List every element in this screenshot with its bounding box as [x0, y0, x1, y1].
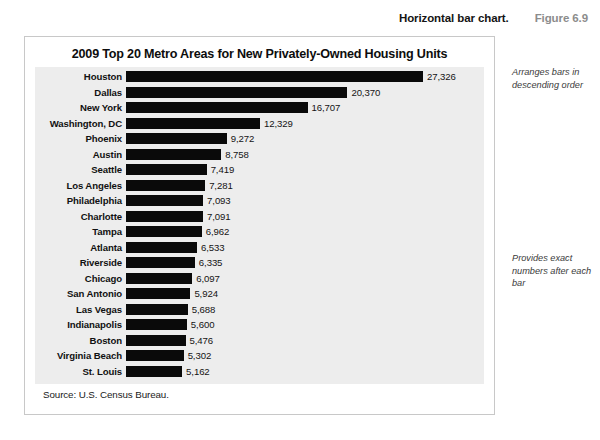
bar-value-label: 20,370	[351, 87, 380, 98]
bar-category-label: Riverside	[35, 257, 126, 268]
bar-value-label: 8,758	[225, 149, 249, 160]
bar-row: St. Louis5,162	[35, 364, 484, 380]
chart-title: 2009 Top 20 Metro Areas for New Privatel…	[25, 47, 494, 61]
bar-category-label: Indianapolis	[35, 319, 126, 330]
bar-track: 5,162	[126, 364, 484, 380]
bar-fill	[126, 195, 203, 206]
bar-fill	[126, 288, 190, 299]
bar-fill	[126, 87, 347, 98]
bar-category-label: Phoenix	[35, 133, 126, 144]
figure-number-label: Figure 6.9	[535, 12, 588, 24]
bar-category-label: Seattle	[35, 164, 126, 175]
bar-value-label: 6,533	[201, 242, 225, 253]
bar-category-label: Las Vegas	[35, 304, 126, 315]
bar-row: Houston27,326	[35, 69, 484, 85]
bar-row-list: Houston27,326Dallas20,370New York16,707W…	[35, 69, 484, 379]
bar-fill	[126, 304, 188, 315]
bar-track: 27,326	[126, 69, 484, 85]
bar-value-label: 5,924	[194, 288, 218, 299]
bar-track: 5,688	[126, 302, 484, 318]
bar-track: 5,924	[126, 286, 484, 302]
bar-fill	[126, 211, 203, 222]
bar-track: 7,093	[126, 193, 484, 209]
bar-category-label: San Antonio	[35, 288, 126, 299]
bar-track: 6,533	[126, 240, 484, 256]
bar-fill	[126, 242, 197, 253]
bar-fill	[126, 350, 184, 361]
bar-category-label: Philadelphia	[35, 195, 126, 206]
bar-row: Atlanta6,533	[35, 240, 484, 256]
bar-fill	[126, 226, 202, 237]
bar-row: Austin8,758	[35, 147, 484, 163]
bar-category-label: Tampa	[35, 226, 126, 237]
bar-row: Seattle7,419	[35, 162, 484, 178]
bar-track: 12,329	[126, 116, 484, 132]
chart-card: 2009 Top 20 Metro Areas for New Privatel…	[24, 36, 495, 415]
bar-track: 5,302	[126, 348, 484, 364]
annotation-descending-order: Arranges bars in descending order	[512, 66, 592, 91]
bar-category-label: Dallas	[35, 87, 126, 98]
bar-row: Indianapolis5,600	[35, 317, 484, 333]
bar-track: 9,272	[126, 131, 484, 147]
bar-value-label: 5,600	[191, 319, 215, 330]
bar-row: Philadelphia7,093	[35, 193, 484, 209]
bar-category-label: Washington, DC	[35, 118, 126, 129]
figure-caption-row: Horizontal bar chart. Figure 6.9	[0, 12, 588, 30]
bar-value-label: 6,097	[196, 273, 220, 284]
bar-category-label: Charlotte	[35, 211, 126, 222]
bar-fill	[126, 149, 221, 160]
source-note: Source: U.S. Census Bureau.	[43, 389, 169, 400]
bar-track: 16,707	[126, 100, 484, 116]
bar-fill	[126, 366, 182, 377]
bar-row: New York16,707	[35, 100, 484, 116]
bar-fill	[126, 335, 186, 346]
plot-area: Houston27,326Dallas20,370New York16,707W…	[35, 67, 484, 384]
bar-fill	[126, 180, 205, 191]
bar-track: 6,962	[126, 224, 484, 240]
bar-row: Virginia Beach5,302	[35, 348, 484, 364]
bar-value-label: 6,335	[199, 257, 223, 268]
bar-value-label: 16,707	[312, 102, 341, 113]
annotation-exact-numbers: Provides exact numbers after each bar	[512, 252, 592, 290]
bar-track: 5,600	[126, 317, 484, 333]
bar-value-label: 5,302	[188, 350, 212, 361]
bar-value-label: 5,476	[190, 335, 214, 346]
bar-category-label: Chicago	[35, 273, 126, 284]
bar-fill	[126, 71, 423, 82]
bar-row: Charlotte7,091	[35, 209, 484, 225]
bar-value-label: 7,091	[207, 211, 231, 222]
bar-value-label: 12,329	[264, 118, 293, 129]
figure-caption-text: Horizontal bar chart.	[399, 12, 509, 24]
bar-row: Los Angeles7,281	[35, 178, 484, 194]
bar-row: Las Vegas5,688	[35, 302, 484, 318]
bar-track: 6,097	[126, 271, 484, 287]
bar-fill	[126, 257, 195, 268]
bar-category-label: New York	[35, 102, 126, 113]
bar-fill	[126, 118, 260, 129]
bar-category-label: Los Angeles	[35, 180, 126, 191]
bar-value-label: 27,326	[427, 71, 456, 82]
bar-category-label: Atlanta	[35, 242, 126, 253]
bar-category-label: St. Louis	[35, 366, 126, 377]
bar-category-label: Boston	[35, 335, 126, 346]
bar-track: 7,091	[126, 209, 484, 225]
bar-row: Riverside6,335	[35, 255, 484, 271]
bar-fill	[126, 133, 227, 144]
bar-row: Washington, DC12,329	[35, 116, 484, 132]
bar-track: 6,335	[126, 255, 484, 271]
bar-fill	[126, 102, 308, 113]
bar-value-label: 7,093	[207, 195, 231, 206]
bar-value-label: 9,272	[231, 133, 255, 144]
bar-track: 7,419	[126, 162, 484, 178]
bar-value-label: 7,281	[209, 180, 233, 191]
bar-track: 5,476	[126, 333, 484, 349]
bar-row: San Antonio5,924	[35, 286, 484, 302]
bar-track: 8,758	[126, 147, 484, 163]
bar-value-label: 6,962	[206, 226, 230, 237]
bar-fill	[126, 273, 192, 284]
bar-value-label: 7,419	[211, 164, 235, 175]
bar-row: Boston5,476	[35, 333, 484, 349]
bar-value-label: 5,162	[186, 366, 210, 377]
bar-category-label: Houston	[35, 71, 126, 82]
bar-category-label: Austin	[35, 149, 126, 160]
